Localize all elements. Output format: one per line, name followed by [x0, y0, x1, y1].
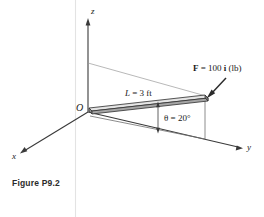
figure-caption: Figure P9.2 [12, 178, 60, 188]
origin-label: O [76, 103, 83, 113]
z-axis [86, 18, 91, 112]
force-units: (lb) [229, 63, 242, 73]
force-label: F = 100 i (lb) [193, 64, 242, 73]
z-axis-label: z [91, 7, 95, 16]
angle-dimension-line [156, 102, 160, 134]
rod-length-label: L = 3 ft [125, 89, 152, 98]
force-equals: = 100 [199, 63, 224, 73]
figure-p9-2: z x y O L = 3 ft θ = 20° F = 100 i (lb) … [0, 0, 264, 217]
x-axis-label: x [12, 152, 16, 161]
rod-length-value: = 3 ft [130, 88, 152, 98]
y-axis-label: y [247, 143, 251, 152]
x-axis [20, 112, 88, 154]
angle-label: θ = 20° [164, 114, 191, 123]
force-arrow [207, 78, 227, 99]
